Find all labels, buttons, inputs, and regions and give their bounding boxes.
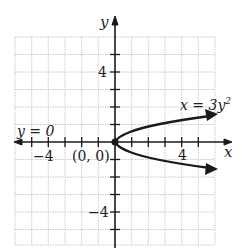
origin-label: (0, 0) [72,148,110,164]
coordinate-graph: y x 4 −4 −4 4 (0, 0) y = 0 x = 3y2 [0,0,242,250]
y-tick-label-4: 4 [98,64,107,80]
x-tick-label-4: 4 [178,147,187,163]
vertex-point [112,139,119,146]
x-tick-label-neg4: −4 [33,148,54,164]
y-tick-label-neg4: −4 [88,204,109,220]
axis-of-symmetry-label: y = 0 [16,123,55,139]
y-axis [110,16,120,248]
curve-equation-label: x = 3y2 [180,96,231,113]
y-axis-label: y [99,13,109,31]
x-axis-label: x [224,143,233,161]
